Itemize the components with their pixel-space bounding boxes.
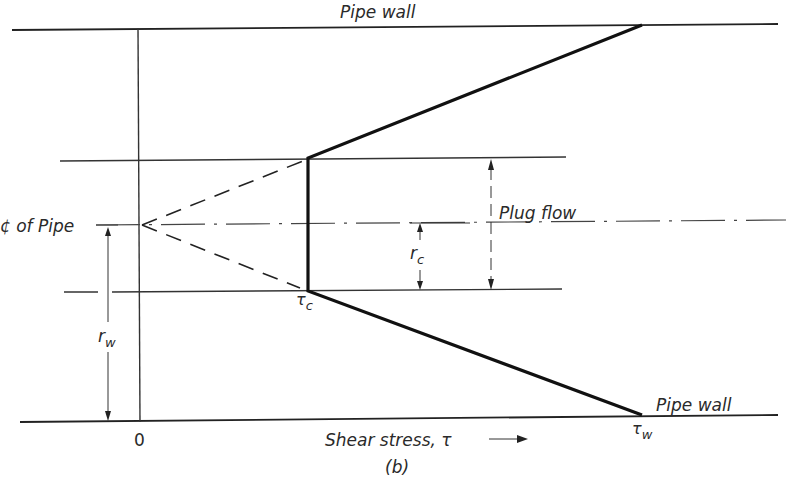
tau-w-subscript: w	[642, 427, 653, 442]
origin-label: 0	[134, 430, 145, 450]
r-w-arrowhead-up	[105, 227, 111, 236]
plug-flow-arrowhead-up	[488, 159, 494, 170]
figure-caption: (b)	[385, 457, 409, 477]
tau-w-label: τw	[632, 419, 653, 442]
top-pipe-wall-line	[12, 24, 778, 30]
tau-c-subscript: c	[306, 298, 313, 313]
tau-w-symbol: τ	[632, 419, 642, 438]
centerline-label: ¢ of Pipe	[0, 216, 74, 236]
bottom-pipe-wall-line	[20, 415, 778, 422]
shear-stress-diagram: Pipe wall Pipe wall ¢ of Pipe Plug flow …	[0, 0, 791, 483]
dashed-extension-upper	[142, 161, 303, 225]
plug-flow-label: Plug flow	[499, 203, 576, 223]
r-w-label: rw	[98, 326, 116, 350]
x-axis-arrow-icon	[517, 435, 528, 443]
top-pipe-wall-label: Pipe wall	[340, 2, 416, 22]
r-w-subscript: w	[105, 335, 116, 350]
shear-stress-profile	[308, 25, 642, 415]
r-c-subscript: c	[417, 252, 424, 267]
plug-bottom-boundary	[112, 289, 562, 292]
tau-c-symbol: τ	[296, 290, 306, 309]
r-c-label: rc	[410, 243, 424, 267]
bottom-pipe-wall-label: Pipe wall	[656, 395, 732, 415]
r-c-arrowhead-down	[417, 281, 423, 290]
plug-flow-arrowhead-down	[488, 279, 494, 290]
x-axis-label: Shear stress, τ	[325, 430, 452, 450]
r-c-arrowhead-up	[417, 223, 423, 232]
r-w-arrowhead-down	[105, 411, 111, 421]
dashed-extension-lower	[142, 225, 300, 288]
